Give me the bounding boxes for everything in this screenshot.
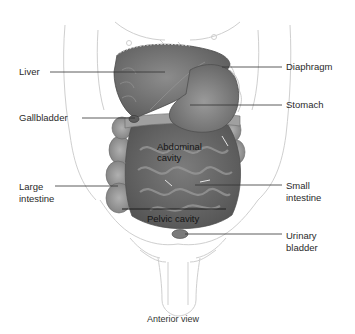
label-pelvic-cavity: Pelvic cavity — [147, 213, 199, 224]
label-abdominal-line2: cavity — [157, 152, 202, 163]
label-small-intestine: Small intestine — [286, 180, 321, 203]
label-diaphragm: Diaphragm — [286, 61, 332, 73]
label-abdominal-line1: Abdominal — [157, 141, 202, 152]
label-small-intestine-line2: intestine — [286, 192, 321, 204]
label-urinary-bladder-line1: Urinary — [286, 230, 318, 242]
label-stomach: Stomach — [286, 99, 324, 111]
label-small-intestine-line1: Small — [286, 180, 321, 192]
label-large-intestine-line1: Large — [19, 181, 54, 193]
label-urinary-bladder-line2: bladder — [286, 242, 318, 254]
anatomy-figure: Liver Gallbladder Large intestine Diaphr… — [0, 0, 355, 334]
label-large-intestine: Large intestine — [19, 181, 54, 204]
label-urinary-bladder: Urinary bladder — [286, 230, 318, 253]
label-large-intestine-line2: intestine — [19, 193, 54, 205]
gallbladder-organ — [129, 116, 139, 123]
view-caption: Anterior view — [147, 314, 199, 324]
label-gallbladder: Gallbladder — [19, 112, 68, 124]
torso-illustration — [0, 0, 355, 334]
label-liver: Liver — [19, 66, 40, 78]
label-abdominal-cavity: Abdominal cavity — [157, 141, 202, 163]
